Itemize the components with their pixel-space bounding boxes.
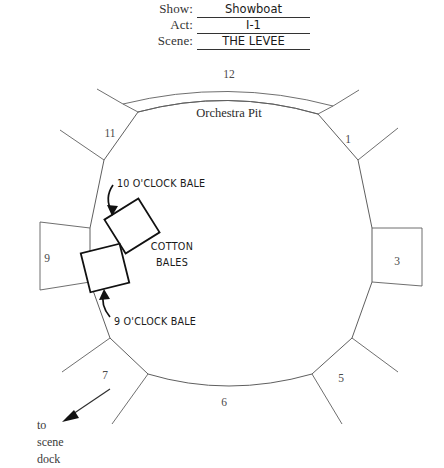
wing-number-5: 5	[338, 372, 344, 384]
wing-number-7: 7	[102, 369, 108, 381]
wing-number-12: 12	[223, 68, 235, 80]
stage-ground-plan: 1 3 5 6 7 9 11 12 Orchestra Pit 10 O'CLO…	[0, 0, 444, 468]
cotton-bales-label-line1: COTTON	[151, 241, 193, 252]
scene-dock-label-line1: to	[37, 418, 46, 432]
scene-dock-label-line3: dock	[37, 452, 60, 466]
bale-9-label: 9 O'CLOCK BALE	[114, 316, 196, 327]
scene-dock-label-line2: scene	[37, 435, 64, 449]
wing-number-1: 1	[345, 133, 351, 145]
wing-number-9: 9	[44, 252, 50, 264]
cotton-bales-label-line2: BALES	[156, 257, 188, 268]
bale-10-label: 10 O'CLOCK BALE	[117, 178, 205, 189]
cotton-bale-9-oclock[interactable]	[81, 244, 129, 292]
wing-number-6: 6	[221, 396, 227, 408]
wing-number-3: 3	[394, 255, 400, 267]
scene-dock-arrow	[62, 389, 110, 422]
orchestra-pit-label: Orchestra Pit	[196, 106, 262, 120]
wing-number-11: 11	[104, 127, 115, 139]
